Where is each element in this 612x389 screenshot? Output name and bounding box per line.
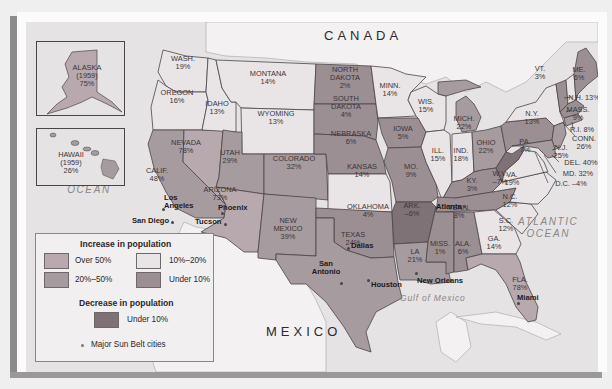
state-label-ind: IND.18% xyxy=(454,147,469,163)
hawaii-label: HAWAII (1959) 26% xyxy=(58,151,84,175)
state-label-ny: N.Y.13% xyxy=(525,110,540,126)
state-label-ill: ILL.15% xyxy=(431,147,446,163)
city-dot-san-antonio xyxy=(340,282,343,285)
atlantic-ocean-label: ATLANTIC OCEAN xyxy=(518,216,578,240)
canada-label: CANADA xyxy=(324,28,402,43)
city-dot-dallas xyxy=(347,247,350,250)
legend-label-under10: Under 10% xyxy=(169,275,210,284)
legend-label-20to50: 20%–50% xyxy=(75,275,112,284)
legend-swatch-over50 xyxy=(44,253,69,269)
city-label-phoenix: Phoenix xyxy=(218,204,248,212)
state-label-miss: MISS.1% xyxy=(430,240,450,256)
state-label-fla: FLA.78% xyxy=(512,276,528,292)
state-label-iowa: IOWA5% xyxy=(393,125,412,141)
state-label-nh: N.H. 13% xyxy=(568,94,598,102)
state-label-vt: VT.3% xyxy=(535,65,546,81)
hawaii-inset: HAWAII (1959) 26% xyxy=(36,128,125,186)
city-label-san-diego: San Diego xyxy=(132,217,169,225)
city-dot-atlanta xyxy=(463,205,466,208)
state-label-arizona: ARIZONA73% xyxy=(204,186,237,202)
legend-label-decrease: Under 10% xyxy=(127,315,168,324)
state-label-nevada: NEVADA78% xyxy=(171,139,201,155)
legend-swatch-under10 xyxy=(136,272,161,288)
state-label-oklahoma: OKLAHOMA4% xyxy=(347,203,389,219)
state-label-wyoming: WYOMING13% xyxy=(258,110,295,126)
state-label-wis: WIS.15% xyxy=(418,98,434,114)
state-label-wv: W.V.–7% xyxy=(493,170,508,186)
city-label-houston: Houston xyxy=(371,281,402,289)
state-label-calif: CALIF.48% xyxy=(146,167,168,183)
legend-increase-title: Increase in population xyxy=(80,239,171,249)
map-legend: Increase in population Over 50% 10%–20% … xyxy=(35,233,214,362)
legend-swatch-10to20 xyxy=(136,253,161,269)
state-label-dc: D.C. –4% xyxy=(555,180,587,188)
mexico-label: MEXICO xyxy=(266,324,341,339)
legend-swatch-20to50 xyxy=(44,272,69,288)
city-dot-phoenix xyxy=(221,212,224,215)
city-label-atlanta: Atlanta xyxy=(436,203,462,211)
state-label-md: MD. 32% xyxy=(563,170,593,178)
city-label-dallas: Dallas xyxy=(351,242,373,250)
state-label-nc: N.C.12% xyxy=(503,193,518,209)
city-dot-miami xyxy=(517,302,520,305)
state-label-ohio: OHIO22% xyxy=(477,139,496,155)
city-label-tucson: Tucson xyxy=(195,218,221,226)
city-label-miami: Miami xyxy=(517,294,539,302)
state-label-mo: MO.9% xyxy=(404,163,418,179)
state-label-me: ME.6% xyxy=(572,66,585,82)
state-label-colorado: COLORADO32% xyxy=(273,155,315,171)
state-label-utah: UTAH29% xyxy=(220,149,240,165)
legend-city-dot xyxy=(81,344,84,347)
page-bottom-bar xyxy=(10,372,602,378)
city-label-los-angeles: Los Angeles xyxy=(164,194,198,210)
state-label-kansas: KANSAS14% xyxy=(347,163,377,179)
state-label-nebraska: NEBRASKA6% xyxy=(331,130,371,146)
city-label-new-orleans: New Orleans xyxy=(417,277,463,285)
state-label-newmexico: NEW MEXICO39% xyxy=(268,217,308,241)
city-dot-tucson xyxy=(224,223,227,226)
legend-decrease-title: Decrease in population xyxy=(79,298,174,308)
state-label-minn: MINN.14% xyxy=(380,82,401,98)
legend-swatch-decrease xyxy=(94,312,119,328)
legend-label-10to20: 10%–20% xyxy=(169,256,206,265)
state-label-sdakota: SOUTH DAKOTA4% xyxy=(326,95,366,119)
state-label-ndakota: NORTH DAKOTA2% xyxy=(325,66,365,90)
city-label-san-antonio: San Antonio xyxy=(309,260,343,276)
alaska-inset: ALASKA (1959) 75% xyxy=(36,41,125,116)
state-label-idaho: IDAHO13% xyxy=(205,100,228,116)
city-dot-san-diego xyxy=(171,221,174,224)
state-label-oregon: OREGON16% xyxy=(161,89,194,105)
state-label-ga: GA.14% xyxy=(487,235,502,251)
state-label-wash: WASH.19% xyxy=(171,55,195,71)
state-label-montana: MONTANA14% xyxy=(250,70,286,86)
legend-label-cities: Major Sun Belt cities xyxy=(91,340,166,349)
state-label-del: DEL. 40% xyxy=(564,159,597,167)
state-label-conn: CONN.26% xyxy=(572,135,596,151)
state-label-sc: S.C.12% xyxy=(499,217,514,233)
state-label-la: LA21% xyxy=(408,248,423,264)
city-dot-new-orleans xyxy=(415,272,418,275)
gulf-of-mexico-label: Gulf of Mexico xyxy=(400,293,466,303)
state-label-ri: R.I. 8% xyxy=(570,126,594,134)
state-label-pa: PA.7% xyxy=(519,138,530,154)
state-label-mich: MICH.22% xyxy=(454,115,475,131)
state-label-ala: ALA.6% xyxy=(455,240,471,256)
state-label-mass: MASS.9% xyxy=(567,106,590,122)
state-label-ky: KY.3% xyxy=(467,177,478,193)
alaska-label: ALASKA (1959) 75% xyxy=(73,64,102,88)
page-left-bar xyxy=(10,16,17,372)
state-label-ark: ARK.–6% xyxy=(403,202,420,218)
legend-label-over50: Over 50% xyxy=(75,256,111,265)
city-dot-houston xyxy=(367,279,370,282)
